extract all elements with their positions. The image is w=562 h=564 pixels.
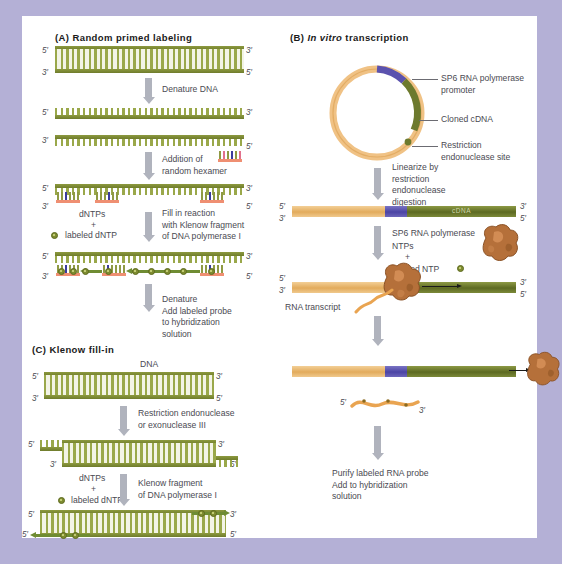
cdna-segment-label: cDNA: [407, 207, 516, 214]
vector-segment: [292, 366, 385, 377]
incorporated-label-dot: [180, 268, 187, 275]
c-d-5p: 5′: [32, 372, 38, 381]
ss-bases: [55, 139, 244, 147]
a-arrow-final: [142, 284, 155, 312]
hexamer-backbone: [95, 200, 119, 203]
ss-bases: [55, 256, 244, 264]
a-s1-5p: 5′: [42, 108, 48, 117]
b-callout-cdna: Cloned cDNA: [441, 114, 493, 126]
b-callout-promoter: SP6 RNA polymerase promoter: [441, 73, 524, 96]
c-labeled-dntp-label: labeled dNTP: [71, 495, 123, 505]
c-recessed-duplex-core: [62, 440, 216, 467]
sp6-promoter-segment: [385, 366, 407, 377]
dna-bottom-strand: [44, 395, 214, 399]
dna-bottom-strand: [62, 463, 216, 467]
labeled-dntp-dot: [51, 232, 58, 239]
callout-line-promoter: [412, 79, 438, 80]
incorporated-label-dot: [105, 268, 112, 275]
c-d-3p-l: 3′: [32, 394, 38, 403]
a-f-3p-l: 3′: [42, 272, 48, 281]
a-p-5p: 5′: [42, 184, 48, 193]
callout-line-cdna: [419, 120, 438, 121]
b-t-5p-r: 5′: [520, 290, 526, 299]
a-s2-5p: 5′: [246, 142, 252, 151]
dna-base-pairs: [44, 375, 214, 396]
plasmid-diagram: [322, 58, 432, 168]
a-arrow-fillin: [142, 212, 155, 242]
b-l-3p: 3′: [279, 214, 285, 223]
vector-segment: [292, 206, 385, 217]
labeled-dntp-dot: [58, 497, 65, 504]
a-f-5p: 5′: [42, 252, 48, 261]
b-rna-transcript-label: RNA transcript: [285, 302, 340, 312]
a-p-3p-l: 3′: [42, 202, 48, 211]
free-random-hexamer: [218, 151, 242, 162]
b-step-linearize: Linearize by restriction endonuclease di…: [392, 162, 446, 208]
annealed-hexamer-1: [56, 192, 80, 203]
a-d1-3p-left: 3′: [42, 68, 48, 77]
a-step-fillin: Fill in reaction with Klenow fragment of…: [162, 208, 244, 243]
c-step-digest: Restriction endonuclease or exonuclease …: [138, 408, 235, 431]
c-f-5p-r: 5′: [230, 530, 236, 539]
a-filled-template: [55, 252, 244, 263]
c-dntps-label: dNTPs: [79, 473, 105, 483]
c-d-3p: 3′: [216, 372, 222, 381]
cdna-segment: cDNA: [407, 206, 516, 217]
b-enzyme-label: SP6 RNA polymerase: [392, 228, 475, 238]
incorporated-label-dot: [210, 510, 217, 517]
c-plus-label: +: [91, 484, 96, 494]
c-duplex-dna: [44, 372, 214, 399]
c-r-5p: 5′: [28, 440, 34, 449]
c-arrow-digest: [117, 406, 130, 436]
restriction-site-marker: [405, 139, 412, 146]
incorporated-label-dot: [72, 532, 79, 539]
hexamer-backbone: [56, 200, 80, 203]
a-step-final: Denature Add labeled probe to hybridizat…: [162, 294, 232, 340]
b-step-purify: Purify labeled RNA probe Add to hybridiz…: [332, 468, 429, 503]
dna-base-pairs: [62, 443, 216, 464]
hexamer-backbone: [200, 200, 224, 203]
ss-backbone: [55, 115, 244, 119]
b-callout-restriction: Restriction endonuclease site: [441, 140, 510, 163]
c-f-5p: 5′: [28, 510, 34, 519]
probe-label-mark: [386, 399, 390, 403]
probe-label-mark: [362, 399, 366, 403]
purified-rna-probe: [350, 394, 422, 416]
b-arrow-linearize: [371, 168, 384, 200]
incorporated-label-dot: [198, 510, 205, 517]
annealed-hexamer-2: [95, 192, 119, 203]
a-step-denature: Denature DNA: [162, 84, 218, 96]
incorporated-label-dot: [82, 268, 89, 275]
panel-a-title-text: Random primed labeling: [72, 32, 192, 43]
c-r-3p-l: 3′: [50, 460, 56, 469]
panel-c-title-text: Klenow fill-in: [49, 344, 114, 355]
panel-b-label: (B): [290, 32, 304, 43]
ss-bases: [55, 108, 244, 116]
callout-line-restriction: [412, 146, 438, 147]
panel-a-title: (A) Random primed labeling: [55, 32, 192, 43]
panel-c-label: (C): [32, 344, 46, 355]
panel-c-title: (C) Klenow fill-in: [32, 344, 114, 355]
a-arrow-hexamer: [142, 152, 155, 180]
dna-bottom-strand: [55, 69, 244, 73]
b-arrow-release: [371, 316, 384, 346]
a-labeled-dntp-label: labeled dNTP: [65, 230, 117, 240]
c-dna-label: DNA: [140, 359, 158, 369]
c-r-3p: 3′: [218, 440, 224, 449]
probe-label-mark: [404, 403, 408, 407]
c-step-klenow: Klenow fragment of DNA polymerase I: [138, 478, 217, 501]
incorporated-label-dot: [132, 268, 139, 275]
sp6-polymerase-blob-released: [522, 349, 562, 389]
c-f-3p: 3′: [230, 510, 236, 519]
c-f-5p-l: 5′: [22, 530, 28, 539]
hexamer-backbone: [218, 159, 242, 162]
a-dntps-label: dNTPs: [79, 209, 105, 219]
transcription-direction-arrow: [422, 284, 462, 289]
panel-b-title-text: transcription: [345, 32, 408, 43]
incorporated-label-dot: [70, 268, 77, 275]
a-s1-3p: 3′: [246, 108, 252, 117]
incorporated-label-dot: [208, 268, 215, 275]
cdna-segment: [407, 366, 516, 377]
linearized-construct: cDNA: [292, 206, 516, 217]
a-p-5p-r: 5′: [246, 202, 252, 211]
